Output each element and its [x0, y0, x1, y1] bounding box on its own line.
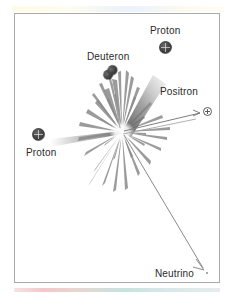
neutrino-dot-icon [206, 272, 208, 274]
label-positron: Positron [160, 86, 198, 97]
proton-sphere-icon [159, 41, 172, 54]
label-proton-left: Proton [26, 147, 56, 158]
label-neutrino: Neutrino [155, 268, 194, 279]
label-deuteron: Deuteron [87, 51, 129, 62]
neutrino-ray [124, 135, 204, 270]
label-proton-top: Proton [150, 25, 180, 36]
proton-sphere-icon [32, 128, 45, 141]
physics-diagram-figure: Proton Deuteron Positron Proton Neutrino [0, 0, 234, 307]
circled-plus-icon [203, 107, 212, 116]
